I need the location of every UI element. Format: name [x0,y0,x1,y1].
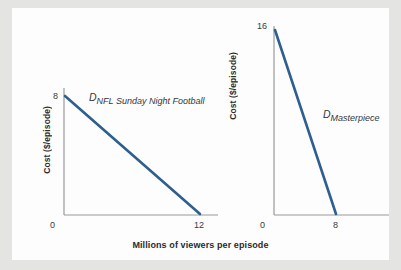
right-y-tick-16: 16 [257,21,267,31]
left-demand-curve [65,96,200,214]
left-curve-label-prefix: D [89,91,97,103]
right-curve-label-prefix: D [323,108,331,120]
left-y-axis-label: Cost ($/episode) [42,106,52,174]
right-curve-label-subscript: Masterpiece [331,113,380,123]
figure-canvas: Cost ($/episode) 8 0 12 DNFL Sunday Nigh… [0,0,401,270]
left-curve-label-subscript: NFL Sunday Night Football [97,96,205,106]
right-y-axis-label: Cost ($/episode) [228,52,238,120]
chart-panel: Cost ($/episode) 8 0 12 DNFL Sunday Nigh… [12,8,389,260]
right-x-tick-8: 8 [333,220,338,230]
right-x-tick-0: 0 [260,220,265,230]
left-curve-label: DNFL Sunday Night Football [89,91,205,103]
right-chart-axes [218,8,389,260]
left-x-tick-12: 12 [194,220,204,230]
left-x-tick-0: 0 [50,220,55,230]
chart-masterpiece: Cost ($/episode) 16 0 8 DMasterpiece [218,8,389,260]
x-axis-title: Millions of viewers per episode [12,240,389,250]
right-demand-curve [275,30,336,214]
right-curve-label: DMasterpiece [323,108,380,120]
left-chart-axes [28,8,218,260]
left-y-tick-8: 8 [53,91,58,101]
chart-nfl-sunday-night-football: Cost ($/episode) 8 0 12 DNFL Sunday Nigh… [28,8,218,260]
